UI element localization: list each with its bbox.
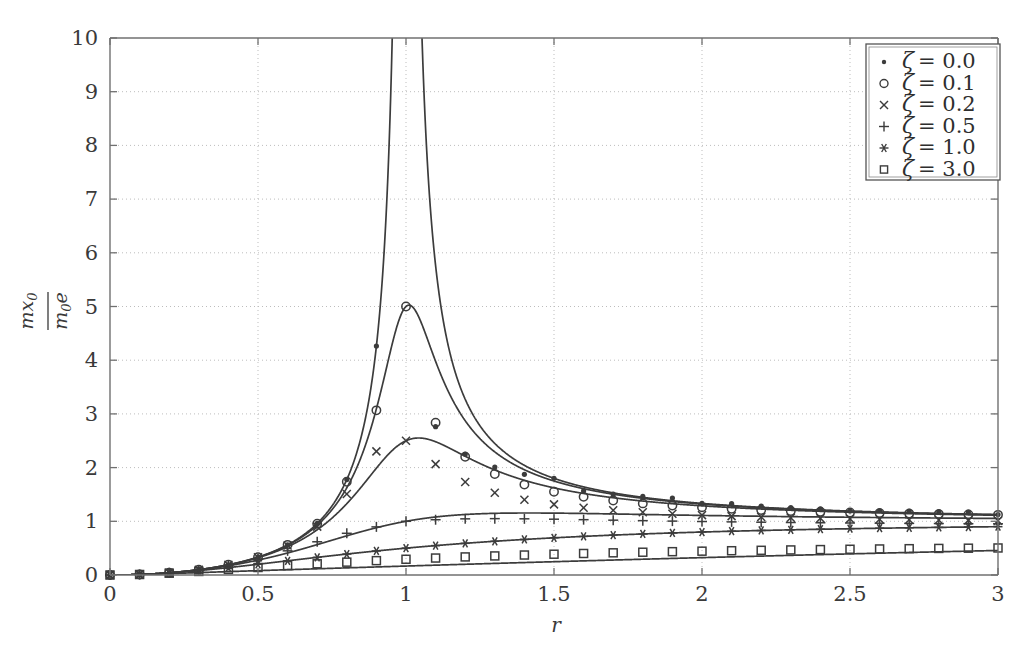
marker-x [580, 504, 588, 512]
marker-plus [845, 518, 855, 528]
marker-circle [491, 470, 499, 478]
marker-asterisk [283, 557, 292, 565]
marker-circle [668, 501, 676, 509]
marker-x [432, 460, 440, 468]
marker-dot [522, 472, 527, 477]
x-tick-label: 2.5 [833, 582, 866, 606]
marker-asterisk [638, 530, 647, 538]
marker-square [639, 548, 647, 556]
marker-asterisk [757, 526, 766, 534]
y-tick-label: 1 [85, 509, 98, 533]
marker-x [550, 500, 558, 508]
y-tick-label: 4 [85, 348, 98, 372]
marker-asterisk [668, 529, 677, 537]
marker-square [876, 545, 884, 553]
marker-square [461, 553, 469, 561]
x-tick-labels: 00.511.522.53 [103, 582, 1004, 606]
y-tick-label: 10 [71, 26, 98, 50]
marker-asterisk [550, 534, 559, 542]
y-axis-denominator: m0e [49, 292, 74, 330]
marker-square [580, 549, 588, 557]
x-tick-label: 0 [103, 582, 116, 606]
marker-square [609, 549, 617, 557]
marker-plus [549, 514, 559, 524]
marker-square [520, 551, 528, 559]
y-axis-title: mx0 m0e [15, 292, 74, 330]
marker-asterisk [490, 537, 499, 545]
x-tick-label: 1.5 [537, 582, 570, 606]
marker-square [905, 545, 913, 553]
marker-square [432, 554, 440, 562]
marker-square [491, 552, 499, 560]
legend-zeta-symbol: ζ [902, 156, 916, 181]
x-axis-title-text: r [551, 613, 562, 637]
gridlines [110, 38, 998, 575]
marker-dot [640, 494, 645, 499]
y-tick-label: 2 [85, 456, 98, 480]
y-tick-label: 5 [85, 295, 98, 319]
marker-square [372, 557, 380, 565]
x-tick-label: 0.5 [241, 582, 274, 606]
marker-dot [670, 495, 675, 500]
marker-x [461, 478, 469, 486]
marker-asterisk [461, 539, 470, 547]
x-axis-title: r [551, 613, 562, 637]
y-tick-label: 6 [85, 241, 98, 265]
y-tick-label: 0 [85, 563, 98, 587]
x-tick-label: 1 [399, 582, 412, 606]
curve-zeta-0-0 [110, 0, 401, 575]
legend-item-label: = 1.0 [918, 135, 976, 159]
marker-square [284, 562, 292, 570]
marker-x [372, 447, 380, 455]
marker-x [402, 437, 410, 445]
marker-plus [579, 515, 589, 525]
marker-plus [815, 518, 825, 528]
marker-x [520, 496, 528, 504]
legend-item-label: = 0.5 [918, 114, 976, 138]
marker-square [816, 546, 824, 554]
marker-asterisk [727, 527, 736, 535]
marker-asterisk [372, 547, 381, 555]
legend-item-label: = 0.0 [918, 49, 976, 73]
marker-plus [490, 514, 500, 524]
marker-plus [371, 522, 381, 532]
marker-plus [727, 517, 737, 527]
marker-plus [756, 517, 766, 527]
marker-square [343, 558, 351, 566]
y-tick-label: 9 [85, 80, 98, 104]
y-tick-label: 3 [85, 402, 98, 426]
legend-item-label: = 3.0 [918, 157, 976, 181]
marker-asterisk [431, 542, 440, 550]
chart-figure: 00.511.522.53 012345678910 r mx0 m0e ζ= … [0, 0, 1033, 653]
marker-dot [551, 476, 556, 481]
x-tick-label: 2 [695, 582, 708, 606]
data-markers [105, 302, 1003, 580]
marker-square [728, 547, 736, 555]
marker-square [757, 546, 765, 554]
x-tick-label: 3 [991, 582, 1004, 606]
marker-plus [401, 516, 411, 526]
y-tick-label: 7 [85, 187, 98, 211]
legend-item-label: = 0.1 [918, 71, 976, 95]
legend-item-label: = 0.2 [918, 92, 976, 116]
marker-asterisk [520, 535, 529, 543]
marker-square [787, 546, 795, 554]
marker-plus [638, 516, 648, 526]
marker-asterisk [342, 550, 351, 558]
marker-dot [492, 465, 497, 470]
marker-circle [520, 480, 528, 488]
legend[interactable]: ζ= 0.0ζ= 0.1ζ= 0.2ζ= 0.5ζ= 1.0ζ= 3.0 [866, 44, 1000, 181]
marker-square [668, 548, 676, 556]
marker-square [698, 547, 706, 555]
y-tick-label: 8 [85, 133, 98, 157]
marker-asterisk [609, 531, 618, 539]
y-axis-numerator: mx0 [15, 292, 40, 329]
y-tick-labels: 012345678910 [71, 26, 98, 587]
chart-svg: 00.511.522.53 012345678910 r mx0 m0e ζ= … [0, 0, 1033, 653]
marker-dot [374, 343, 379, 348]
marker-plus [519, 514, 529, 524]
marker-plus [786, 518, 796, 528]
marker-plus [608, 515, 618, 525]
marker-x [491, 489, 499, 497]
marker-asterisk [579, 532, 588, 540]
